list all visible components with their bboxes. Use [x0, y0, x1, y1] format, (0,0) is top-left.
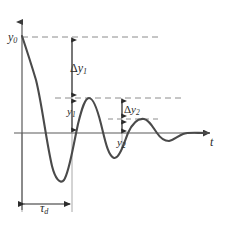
damped-oscillation-curve: [22, 36, 209, 182]
label-delta-y2: Δy2: [124, 104, 140, 116]
label-y0: y0: [8, 31, 17, 45]
label-delta-y1: Δy1: [70, 62, 87, 76]
figure-canvas: [0, 0, 227, 226]
label-t-axis: t: [210, 136, 213, 148]
damped-oscillation-figure: y0 Δy1 y1 Δy2 y2 τd t: [0, 0, 227, 226]
label-y2: y2: [117, 137, 126, 149]
label-tau-d: τd: [40, 202, 48, 216]
label-y1: y1: [67, 106, 76, 118]
